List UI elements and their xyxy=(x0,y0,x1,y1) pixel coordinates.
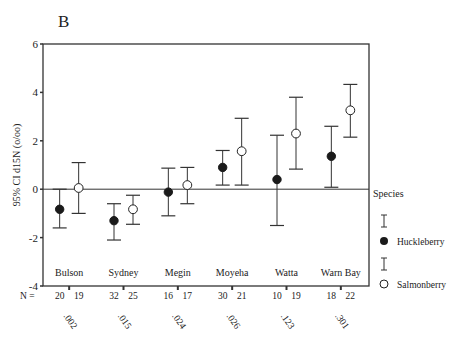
n-value: 19 xyxy=(74,291,84,301)
errorbar-salmonberry xyxy=(289,97,303,169)
p-value-label: .026 xyxy=(225,311,243,331)
panel-label: B xyxy=(58,12,69,31)
errorbar-salmonberry xyxy=(126,195,140,224)
legend-title: Species xyxy=(373,188,404,199)
n-value: 10 xyxy=(272,291,282,301)
y-tick-label: 4 xyxy=(33,86,39,98)
filled-circle-icon xyxy=(380,237,388,245)
mean-marker-open xyxy=(183,181,192,190)
errorbar-salmonberry xyxy=(180,167,194,203)
error-bars xyxy=(53,84,358,240)
y-axis: 6420-2-4 xyxy=(29,38,43,292)
y-tick-label: 0 xyxy=(33,183,39,195)
errorbar-huckleberry xyxy=(161,168,175,216)
errorbar-huckleberry xyxy=(270,135,284,225)
category-label: Watta xyxy=(275,267,299,278)
plot-frame xyxy=(43,44,369,286)
mean-marker-filled xyxy=(110,216,118,224)
plot-border xyxy=(43,44,369,286)
n-value: 30 xyxy=(218,291,228,301)
legend-label: Salmonberry xyxy=(397,280,446,290)
n-value: 32 xyxy=(109,291,119,301)
y-tick-label: -2 xyxy=(29,232,38,244)
mean-marker-open xyxy=(237,147,246,156)
mean-marker-open xyxy=(346,106,355,115)
n-value: 19 xyxy=(291,291,301,301)
p-value-label: .024 xyxy=(170,311,188,331)
n-value: 20 xyxy=(55,291,65,301)
errorbar-salmonberry xyxy=(343,84,357,137)
errorbar-salmonberry xyxy=(72,163,86,214)
mean-marker-filled xyxy=(327,152,335,160)
n-value: 21 xyxy=(237,291,247,301)
p-value-label: .123 xyxy=(279,311,297,331)
legend: Species HuckleberrySalmonberry xyxy=(373,188,446,290)
category-label: Moyeha xyxy=(216,267,249,278)
p-value-label: .301 xyxy=(333,311,351,331)
mean-marker-open xyxy=(292,129,301,138)
mean-marker-filled xyxy=(218,163,226,171)
p-value-label: .015 xyxy=(116,311,134,331)
errorbar-chart: B 6420-2-4 95% CI d15N (o/oo) BulsonSydn… xyxy=(0,0,459,351)
legend-label: Huckleberry xyxy=(397,237,445,247)
n-value: 18 xyxy=(327,291,337,301)
y-tick-label: 6 xyxy=(33,38,39,50)
category-label: Bulson xyxy=(55,267,83,278)
n-value: 17 xyxy=(183,291,193,301)
category-label: Megin xyxy=(165,267,191,278)
errorbar-huckleberry xyxy=(324,126,338,187)
n-label: N = xyxy=(20,291,35,301)
open-circle-icon xyxy=(380,280,388,288)
n-value: 25 xyxy=(128,291,138,301)
mean-marker-open xyxy=(74,184,83,193)
y-axis-label: 95% CI d15N (o/oo) xyxy=(11,124,23,207)
category-label: Sydney xyxy=(109,267,139,278)
mean-marker-filled xyxy=(273,175,281,183)
p-value-label: .002 xyxy=(62,311,80,331)
mean-marker-open xyxy=(129,205,138,214)
errorbar-salmonberry xyxy=(235,118,249,185)
sample-size-row: N = 201932251617302110191822 xyxy=(20,291,355,301)
legend-item-salmonberry: Salmonberry xyxy=(380,258,446,290)
n-value: 16 xyxy=(164,291,174,301)
mean-marker-filled xyxy=(55,205,63,213)
n-value: 22 xyxy=(346,291,356,301)
errorbar-huckleberry xyxy=(216,150,230,185)
p-value-labels: .002.015.024.026.123.301 xyxy=(62,311,352,331)
mean-marker-filled xyxy=(164,188,172,196)
legend-item-huckleberry: Huckleberry xyxy=(380,215,445,247)
errorbar-huckleberry xyxy=(53,189,67,228)
category-label: Warn Bay xyxy=(321,267,361,278)
y-tick-label: 2 xyxy=(33,135,39,147)
errorbar-huckleberry xyxy=(107,204,121,240)
